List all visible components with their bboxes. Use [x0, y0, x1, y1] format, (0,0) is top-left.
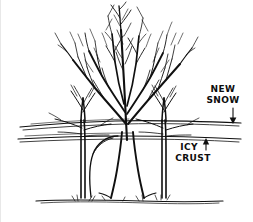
new-snow-label-line2: SNOW	[206, 95, 239, 105]
new-snow-surface-line	[20, 119, 241, 130]
scene-drawing: NEW SNOW ICY CRUST	[1, 0, 253, 222]
icy-crust-line	[18, 133, 241, 142]
icy-crust-annotation: ICY CRUST	[175, 138, 211, 163]
ground-line	[36, 195, 223, 204]
arrow-down-icon	[230, 108, 237, 124]
new-snow-label-line1: NEW	[211, 84, 236, 94]
icy-crust-label-line1: ICY	[180, 142, 198, 152]
winter-tree-diagram: NEW SNOW ICY CRUST	[0, 0, 253, 222]
new-snow-annotation: NEW SNOW	[206, 84, 239, 124]
center-tree-trunk	[90, 132, 156, 198]
arrow-up-icon	[203, 138, 209, 150]
icy-crust-label-line2: CRUST	[175, 153, 211, 163]
